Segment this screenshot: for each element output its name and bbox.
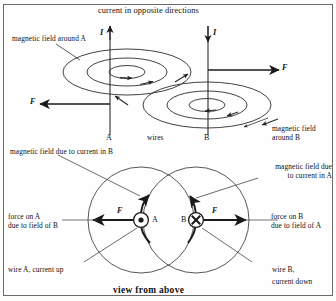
label-magnetic-field-around-b-line1: magnetic field: [272, 124, 316, 133]
label-force-on-b-line2: due to field of A: [271, 221, 321, 230]
wire-b-symbol-cross-into-page: [189, 213, 204, 228]
label-wire-b-upper: B: [204, 133, 209, 142]
label-field-due-to-current-in-b: magnetic field due to current in B: [10, 147, 113, 156]
label-magnetic-field-around-b-line2: around B: [272, 133, 300, 142]
label-force-b-lower: F: [212, 206, 217, 215]
label-field-due-to-current-in-a-line1: magnetic field due: [214, 162, 332, 171]
label-wire-b-note-line2: current down: [272, 277, 312, 286]
label-magnetic-field-around-a: magnetic field around A: [12, 34, 86, 43]
label-field-due-to-current-in-a-line2: to current in A: [214, 171, 332, 180]
leader-field-around-a: [56, 44, 80, 60]
label-wires: wires: [147, 133, 164, 142]
label-force-on-b-line1: force on B: [271, 212, 303, 221]
label-wire-a-lower: A: [152, 215, 158, 224]
label-current-a: I: [100, 28, 103, 37]
label-wire-b-note-line1: wire B,: [272, 265, 294, 274]
label-wire-b-lower: B: [181, 215, 186, 224]
upper-field-ellipses-a: [63, 49, 191, 95]
bottom-caption: view from above: [113, 285, 184, 295]
label-force-on-a-line1: force on A: [8, 212, 40, 221]
label-wire-a-upper: A: [106, 133, 112, 142]
figure-root: current in opposite directions: [0, 0, 336, 301]
label-force-a-lower: F: [117, 206, 122, 215]
wire-a-symbol-dot-out-of-page: [134, 213, 149, 228]
label-wire-a-current-up: wire A, current up: [8, 265, 64, 274]
upper-field-direction-arrows-a: [120, 74, 188, 85]
label-force-on-a-line2: due to field of B: [8, 221, 58, 230]
label-force-upper-a: F: [30, 97, 35, 106]
label-current-b: I: [213, 28, 216, 37]
upper-field-ellipses-b: [143, 82, 271, 128]
label-force-upper-b: F: [282, 63, 287, 72]
